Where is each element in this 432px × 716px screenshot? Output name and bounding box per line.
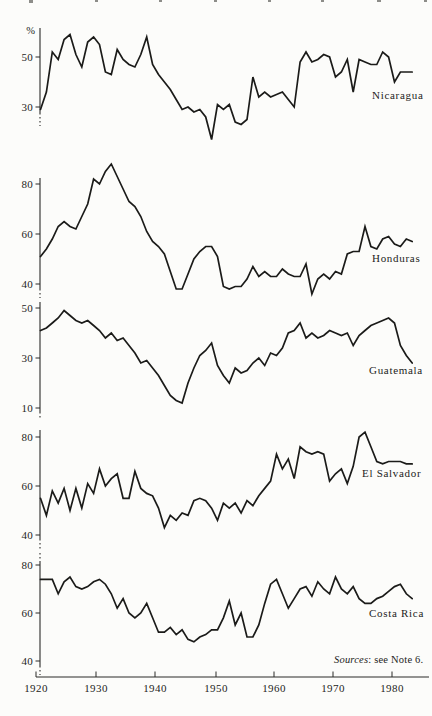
series-line-honduras	[41, 164, 413, 294]
y-tick-label-el-salvador-60: 60	[2, 481, 33, 492]
x-tick-label-1960: 1960	[262, 682, 286, 694]
y-tick-label-el-salvador-40: 40	[2, 530, 33, 541]
series-line-costa-rica	[41, 577, 413, 642]
series-line-guatemala	[41, 311, 413, 404]
x-tick-label-1980: 1980	[380, 682, 404, 694]
y-tick-label-guatemala-30: 30	[2, 353, 33, 364]
series-line-el-salvador	[41, 432, 413, 527]
series-line-nicaragua	[41, 35, 413, 140]
sources-note: Sources: see Note 6.	[334, 654, 423, 665]
sources-text: : see Note 6.	[368, 654, 423, 665]
y-tick-label-el-salvador-80: 80	[2, 432, 33, 443]
y-tick-label-guatemala-50: 50	[2, 303, 33, 314]
y-tick-label-honduras-80: 80	[2, 179, 33, 190]
y-tick-label-nicaragua-50: 50	[2, 52, 33, 63]
sources-word: Sources	[334, 654, 368, 665]
scan-crop-fragment	[268, 0, 271, 2]
y-tick-label-nicaragua-30: 30	[2, 102, 33, 113]
chart-canvas	[0, 0, 432, 716]
series-label-el-salvador: El Salvador	[362, 467, 421, 479]
series-label-costa-rica: Costa Rica	[369, 607, 424, 619]
y-tick-label-honduras-60: 60	[2, 229, 33, 240]
x-tick-label-1950: 1950	[204, 682, 228, 694]
x-tick-label-1920: 1920	[24, 682, 48, 694]
series-label-guatemala: Guatemala	[369, 364, 423, 376]
y-tick-label-costa-rica-80: 80	[2, 560, 33, 571]
x-tick-label-1940: 1940	[143, 682, 167, 694]
series-label-nicaragua: Nicaragua	[372, 89, 424, 101]
scan-crop-fragment	[321, 0, 324, 2]
scan-crop-fragment	[29, 0, 33, 3]
series-label-honduras: Honduras	[372, 252, 420, 264]
scan-crop-fragment	[214, 0, 217, 2]
y-tick-label-guatemala-10: 10	[2, 403, 33, 414]
y-tick-label-honduras-40: 40	[2, 279, 33, 290]
scan-crop-fragment	[95, 0, 98, 2]
x-tick-label-1930: 1930	[84, 682, 108, 694]
scan-crop-fragment	[424, 0, 427, 2]
percent-axis-label: %	[2, 25, 35, 36]
y-tick-label-costa-rica-40: 40	[2, 656, 33, 667]
central-america-export-figure: % Nicaragua Honduras Guatemala El Salvad…	[0, 0, 432, 716]
y-tick-label-costa-rica-60: 60	[2, 608, 33, 619]
x-tick-label-1970: 1970	[321, 682, 345, 694]
scan-crop-fragment	[377, 0, 381, 2]
scan-crop-fragment	[159, 0, 162, 2]
